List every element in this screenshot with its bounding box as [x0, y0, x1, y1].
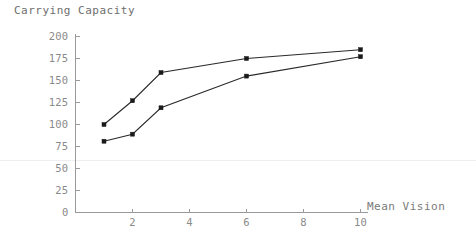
- x-axis-tick-label: 8: [300, 216, 307, 228]
- series-line-upper: [104, 50, 361, 125]
- data-point-marker: [102, 123, 106, 127]
- data-point-marker: [131, 132, 135, 136]
- y-axis-tick-label: 100: [49, 118, 69, 130]
- data-point-marker: [359, 48, 363, 52]
- y-axis: 0255075100125150175200: [49, 30, 80, 218]
- y-axis-tick-label: 175: [49, 52, 69, 64]
- y-axis-tick-label: 200: [49, 30, 69, 42]
- y-axis-tick-label: 0: [62, 206, 69, 218]
- y-axis-tick-label: 25: [55, 184, 68, 196]
- line-chart-plot: 0255075100125150175200 246810: [0, 0, 476, 238]
- chart-figure: Carrying Capacity Mean Vision 0255075100…: [0, 0, 476, 238]
- x-axis-tick-label: 6: [243, 216, 250, 228]
- x-axis: 246810: [76, 209, 368, 228]
- data-point-marker: [359, 55, 363, 59]
- data-point-marker: [245, 74, 249, 78]
- data-point-marker: [245, 57, 249, 61]
- data-series-group: [102, 48, 363, 144]
- series-line-lower: [104, 57, 361, 141]
- data-point-marker: [131, 99, 135, 103]
- x-axis-tick-label: 10: [354, 216, 367, 228]
- data-point-marker: [102, 139, 106, 143]
- y-axis-tick-label: 125: [49, 96, 69, 108]
- y-axis-tick-label: 75: [55, 140, 68, 152]
- y-axis-tick-label: 150: [49, 74, 69, 86]
- data-point-marker: [159, 71, 163, 75]
- x-axis-tick-label: 2: [129, 216, 136, 228]
- x-axis-tick-label: 4: [186, 216, 193, 228]
- data-point-marker: [159, 106, 163, 110]
- y-axis-tick-label: 50: [55, 162, 68, 174]
